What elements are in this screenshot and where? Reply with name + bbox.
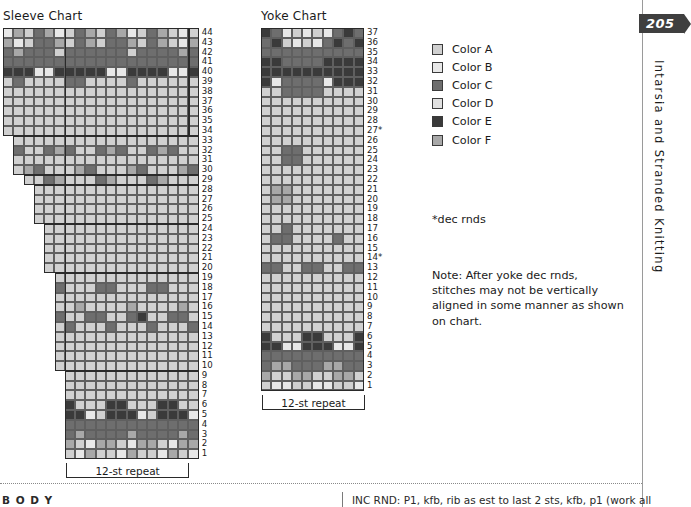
chart-cell-a (178, 351, 188, 361)
chart-cell-e (116, 410, 126, 420)
chart-cell-a (188, 28, 198, 38)
legend-label: Color C (452, 79, 493, 92)
chart-cell-a (292, 136, 302, 146)
chart-cell-c (157, 430, 167, 440)
chart-cell-a (302, 185, 312, 195)
chart-cell-a (24, 97, 34, 107)
chart-cell-a (13, 87, 23, 97)
chart-cell-f (13, 28, 23, 38)
chart-cell-a (178, 77, 188, 87)
chart-cell-a (178, 390, 188, 400)
legend-item: Color D (432, 95, 493, 113)
chart-cell-a (302, 234, 312, 244)
chart-cell-a (312, 302, 322, 312)
chart-cell-a (323, 165, 333, 175)
chart-cell-a (116, 312, 126, 322)
chart-cell-a (75, 293, 85, 303)
chart-cell-a (354, 253, 364, 263)
chart-cell-a (343, 244, 353, 254)
chart-cell-c (13, 146, 23, 156)
chart-cell-a (333, 146, 343, 156)
chart-cell-f (54, 38, 64, 48)
chart-cell-a (354, 273, 364, 283)
chart-cell-a (85, 302, 95, 312)
chart-cell-a (333, 175, 343, 185)
chart-cell-a (13, 155, 23, 165)
chart-row: 17 (3, 293, 199, 303)
chart-cell-a (75, 224, 85, 234)
chart-cell-c (65, 57, 75, 67)
chart-cell-a (354, 116, 364, 126)
chart-row: 18 (261, 214, 364, 224)
chart-cell-a (116, 371, 126, 381)
chart-cell-a (44, 155, 54, 165)
chart-cell-f (178, 439, 188, 449)
chart-cell-a (34, 204, 44, 214)
chart-cell-a (116, 77, 126, 87)
chart-cell-a (168, 381, 178, 391)
chart-cell-b (106, 67, 116, 77)
chart-cell-f (75, 430, 85, 440)
row-number: 1 (202, 449, 207, 459)
chart-cell-a (106, 263, 116, 273)
chart-row: 15 (261, 244, 364, 254)
chart-cell-c (354, 48, 364, 58)
chart-row: 31 (261, 87, 364, 97)
chart-cell-c (85, 312, 95, 322)
chart-cell-a (323, 253, 333, 263)
chart-cell-a (106, 449, 116, 459)
chart-cell-a (127, 146, 137, 156)
chart-cell-e (261, 67, 271, 77)
chart-row: 10 (3, 361, 199, 371)
chart-cell-c (147, 430, 157, 440)
chart-cell-a (312, 195, 322, 205)
chart-cell-c (343, 351, 353, 361)
chart-cell-a (188, 273, 198, 283)
chart-cell-c (282, 224, 292, 234)
chart-cell-a (188, 253, 198, 263)
chart-row: 22 (261, 175, 364, 185)
chart-cell-a (137, 449, 147, 459)
chart-cell-b (34, 67, 44, 77)
chart-cell-a (157, 381, 167, 391)
chart-cell-a (292, 263, 302, 273)
chart-cell-a (333, 332, 343, 342)
chart-cell-a (147, 97, 157, 107)
chart-cell-a (54, 126, 64, 136)
chart-cell-c (292, 48, 302, 58)
legend-swatch-d (432, 98, 443, 109)
chart-cell-c (271, 28, 281, 38)
chart-row: 24 (261, 155, 364, 165)
chart-cell-e (75, 410, 85, 420)
chart-cell-a (343, 332, 353, 342)
chart-cell-a (292, 126, 302, 136)
chart-cell-a (85, 204, 95, 214)
chart-cell-b (188, 410, 198, 420)
chart-cell-a (312, 155, 322, 165)
chart-cell-a (85, 87, 95, 97)
chart-cell-a (24, 136, 34, 146)
chart-cell-a (323, 204, 333, 214)
chart-cell-c (147, 420, 157, 430)
chart-cell-c (147, 48, 157, 58)
chart-cell-a (127, 175, 137, 185)
chart-cell-a (127, 126, 137, 136)
chart-cell-c (271, 234, 281, 244)
chart-cell-c (65, 420, 75, 430)
chart-cell-a (137, 97, 147, 107)
chart-cell-a (96, 28, 106, 38)
chart-cell-a (137, 185, 147, 195)
chart-cell-a (292, 97, 302, 107)
chart-cell-a (137, 263, 147, 273)
chart-cell-c (292, 87, 302, 97)
chart-cell-a (44, 224, 54, 234)
chart-cell-a (168, 351, 178, 361)
chart-cell-a (178, 322, 188, 332)
chart-cell-a (292, 293, 302, 303)
chart-cell-a (75, 195, 85, 205)
chart-cell-a (116, 342, 126, 352)
chart-cell-c (261, 263, 271, 273)
chart-cell-a (127, 214, 137, 224)
chart-row: 30 (3, 165, 199, 175)
chart-cell-a (282, 214, 292, 224)
